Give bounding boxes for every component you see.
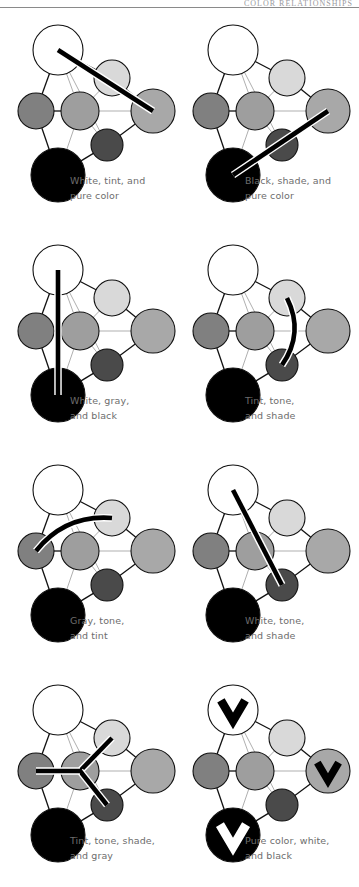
edge-shade-to-pure_color: [295, 784, 310, 795]
edge-white-to-tone: [241, 74, 248, 94]
node-shade[interactable]: [91, 349, 123, 381]
caption-tint-tone-and-shade: Tint, tone,and shade: [245, 393, 357, 423]
edge-shade-to-pure_color: [120, 124, 135, 135]
diagram-white-gray-and-black: White, gray,and black: [8, 238, 182, 458]
node-gray[interactable]: [193, 533, 229, 569]
caption-white-gray-and-black: White, gray,and black: [70, 393, 182, 423]
edge-tone-to-shade: [92, 126, 97, 133]
edge-shade-to-black: [81, 593, 93, 601]
node-tone[interactable]: [236, 92, 274, 130]
caption-line: White, tone,: [245, 613, 357, 628]
edge-white-to-gray: [42, 74, 49, 95]
node-white[interactable]: [33, 685, 83, 735]
edge-white-to-tone: [241, 294, 248, 314]
edge-tint-to-tone: [268, 531, 274, 537]
edge-tone-to-shade: [267, 126, 272, 133]
node-gray[interactable]: [18, 313, 54, 349]
caption-gray-tone-and-tint: Gray, tone,and tint: [70, 613, 182, 643]
node-pure_color[interactable]: [306, 309, 350, 353]
node-tone[interactable]: [236, 312, 274, 350]
edge-shade-to-pure_color: [295, 344, 310, 355]
edge-white-to-gray: [217, 294, 224, 315]
edge-shade-to-black: [256, 813, 268, 821]
edge-tint-to-pure_color: [301, 89, 311, 97]
node-shade[interactable]: [91, 129, 123, 161]
edge-shade-to-black: [81, 153, 93, 161]
edge-white-to-tone: [66, 734, 73, 754]
edge-tint-to-pure_color: [301, 309, 311, 317]
caption-line: White, gray,: [70, 393, 182, 408]
node-pure_color[interactable]: [131, 309, 175, 353]
node-tone[interactable]: [61, 532, 99, 570]
edge-tint-to-pure_color: [126, 529, 136, 537]
edge-tone-to-shade: [92, 566, 97, 573]
edge-gray-to-black: [42, 788, 49, 809]
edge-tint-to-pure_color: [126, 749, 136, 757]
node-tone[interactable]: [61, 312, 99, 350]
edge-tone-to-black: [242, 129, 249, 149]
diagram-tint-tone-shade-and-gray: Tint, tone, shade,and gray: [8, 678, 182, 887]
page-root: COLOR RELATIONSHIPS White, tint, andpure…: [0, 0, 359, 887]
caption-line: and shade: [245, 408, 357, 423]
edge-gray-to-black: [217, 568, 224, 589]
edge-white-to-tint: [80, 282, 96, 290]
edge-gray-to-black: [217, 788, 224, 809]
node-tint[interactable]: [94, 280, 130, 316]
edge-tint-to-tone: [93, 531, 99, 537]
caption-line: Gray, tone,: [70, 613, 182, 628]
node-white[interactable]: [33, 465, 83, 515]
edge-shade-to-black: [81, 373, 93, 381]
header-divider: [0, 7, 359, 8]
edge-white-to-tint: [80, 722, 96, 730]
node-white[interactable]: [208, 245, 258, 295]
edge-tone-to-black: [242, 349, 249, 369]
node-tint[interactable]: [269, 500, 305, 536]
node-pure_color[interactable]: [131, 529, 175, 573]
edge-tone-to-black: [67, 129, 74, 149]
edge-tint-to-pure_color: [301, 529, 311, 537]
caption-line: and gray: [70, 848, 182, 863]
diagram-row: White, tint, andpure colorBlack, shade, …: [0, 18, 359, 238]
diagram-row: Gray, tone,and tintWhite, tone,and shade: [0, 458, 359, 678]
node-tint[interactable]: [269, 720, 305, 756]
caption-line: Pure color, white,: [245, 833, 357, 848]
edge-white-to-tint: [255, 722, 271, 730]
caption-line: Black, shade, and: [245, 173, 357, 188]
node-shade[interactable]: [266, 789, 298, 821]
edge-tone-to-black: [67, 569, 74, 589]
edge-gray-to-black: [217, 348, 224, 369]
node-white[interactable]: [208, 25, 258, 75]
caption-line: and black: [70, 408, 182, 423]
node-tone[interactable]: [236, 752, 274, 790]
node-pure_color[interactable]: [306, 529, 350, 573]
caption-pure-color-white-and-black: Pure color, white,and black: [245, 833, 357, 863]
edge-gray-to-black: [217, 128, 224, 149]
caption-line: and black: [245, 848, 357, 863]
node-tint[interactable]: [269, 60, 305, 96]
node-pure_color[interactable]: [131, 749, 175, 793]
caption-line: and tint: [70, 628, 182, 643]
node-gray[interactable]: [193, 313, 229, 349]
diagram-tint-tone-and-shade: Tint, tone,and shade: [183, 238, 357, 458]
edge-white-to-tone: [66, 74, 73, 94]
node-shade[interactable]: [91, 569, 123, 601]
caption-line: and shade: [245, 628, 357, 643]
caption-white-tint-and-pure-color: White, tint, andpure color: [70, 173, 182, 203]
node-tone[interactable]: [61, 92, 99, 130]
edge-tone-to-black: [242, 569, 249, 589]
node-gray[interactable]: [193, 93, 229, 129]
edge-tint-to-tone: [268, 751, 274, 757]
edge-white-to-tint: [80, 502, 96, 510]
edge-white-to-tone: [241, 734, 248, 754]
edge-tone-to-black: [242, 789, 249, 809]
node-gray[interactable]: [18, 93, 54, 129]
edge-tone-to-shade: [267, 786, 272, 793]
diagram-row: Tint, tone, shade,and grayPure color, wh…: [0, 678, 359, 887]
edge-tone-to-shade: [267, 346, 272, 353]
edge-shade-to-black: [256, 593, 268, 601]
caption-line: pure color: [245, 188, 357, 203]
caption-line: pure color: [70, 188, 182, 203]
caption-white-tone-and-shade: White, tone,and shade: [245, 613, 357, 643]
edge-white-to-tint: [255, 62, 271, 70]
node-gray[interactable]: [193, 753, 229, 789]
